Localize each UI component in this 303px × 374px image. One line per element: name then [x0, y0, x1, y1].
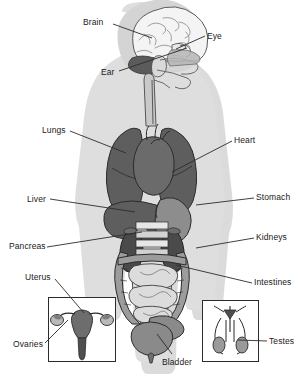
anatomy-illustration: [0, 0, 303, 374]
label-testes: Testes: [269, 336, 294, 346]
trachea: [144, 74, 156, 127]
label-intestines: Intestines: [254, 277, 291, 287]
label-pancreas: Pancreas: [9, 241, 46, 251]
label-ear: Ear: [101, 67, 115, 77]
label-heart: Heart: [234, 135, 255, 145]
label-lungs: Lungs: [42, 125, 66, 135]
label-uterus: Uterus: [25, 272, 51, 282]
label-eye: Eye: [207, 31, 222, 41]
testis-left-icon: [213, 337, 225, 353]
label-kidneys: Kidneys: [256, 232, 287, 242]
male-reproductive-inset: [203, 301, 259, 362]
anatomy-figure: BrainEyeEarLungsHeartLiverStomachPancrea…: [0, 0, 303, 374]
heart-icon: [133, 137, 174, 196]
label-bladder: Bladder: [162, 357, 192, 367]
vaginal-canal: [78, 338, 86, 360]
label-stomach: Stomach: [256, 192, 290, 202]
testis-right-icon: [236, 337, 248, 353]
label-brain: Brain: [83, 17, 103, 27]
label-ovaries: Ovaries: [13, 339, 43, 349]
label-liver: Liver: [27, 194, 46, 204]
abdomen-group: [104, 198, 191, 363]
